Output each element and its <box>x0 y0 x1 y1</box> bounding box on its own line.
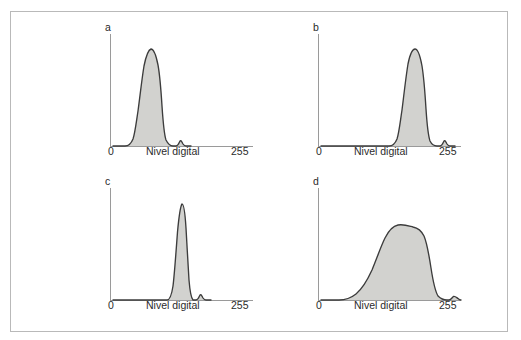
histogram-panel-d: d 0 Nivel digital 255 <box>261 170 509 330</box>
histogram-panel-c: c 0 Nivel digital 255 <box>13 170 261 330</box>
histogram-panel-grid: a 0 Nivel digital 255 b 0 <box>11 12 507 331</box>
panel-c-plot <box>13 170 261 330</box>
panel-d-area <box>321 225 461 300</box>
panel-d-plot <box>261 170 509 330</box>
panel-c-area <box>113 204 211 300</box>
figure-frame: a 0 Nivel digital 255 b 0 <box>10 11 508 332</box>
panel-b-curve <box>321 49 455 146</box>
panel-b-area <box>321 49 455 146</box>
panel-a-plot <box>13 16 261 176</box>
panel-a-area <box>113 49 191 146</box>
panel-c-curve <box>113 204 211 300</box>
histogram-panel-b: b 0 Nivel digital 255 <box>261 16 509 176</box>
panel-b-plot <box>261 16 509 176</box>
histogram-panel-a: a 0 Nivel digital 255 <box>13 16 261 176</box>
